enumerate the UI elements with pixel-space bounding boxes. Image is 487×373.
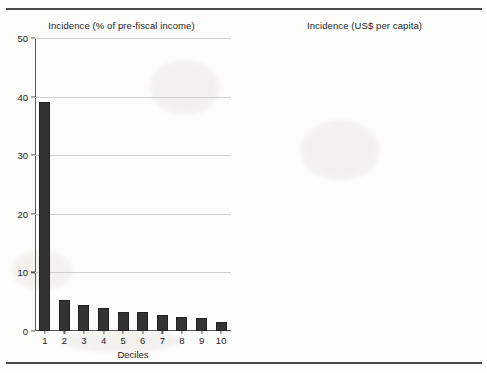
bar	[176, 317, 187, 331]
y-tick-label: 20	[17, 208, 28, 219]
chart-title-right: Incidence (US$ per capita)	[243, 20, 486, 31]
bar	[59, 300, 70, 331]
figure-page: Incidence (% of pre-fiscal income) 01020…	[0, 0, 487, 373]
bar-slot: 2	[55, 38, 75, 331]
page-rule-top	[6, 8, 482, 10]
bar-slot: 4	[94, 38, 114, 331]
bar	[78, 305, 89, 331]
y-tick-label: 0	[23, 326, 28, 337]
bar	[196, 318, 207, 331]
bar-slot: 1	[35, 38, 55, 331]
bar-slot: 5	[113, 38, 133, 331]
x-tick-label: 8	[179, 335, 184, 346]
bar-slot: 6	[133, 38, 153, 331]
x-tick-mark	[123, 331, 124, 334]
x-tick-label: 3	[81, 335, 86, 346]
x-tick-label: 4	[101, 335, 106, 346]
y-tick-label: 50	[17, 33, 28, 44]
plot-area-left: 01020304050 12345678910 Deciles	[35, 38, 231, 331]
bar	[137, 312, 148, 331]
x-tick-label: 7	[160, 335, 165, 346]
bar-slot: 8	[172, 38, 192, 331]
chart-panel-incidence-usd: Incidence (US$ per capita) 00.30.60.91.2…	[243, 12, 486, 360]
x-tick-label: 5	[121, 335, 126, 346]
x-tick-mark	[83, 331, 84, 334]
y-tick-label: 40	[17, 91, 28, 102]
figure-panels: Incidence (% of pre-fiscal income) 01020…	[0, 12, 487, 360]
x-tick-mark	[162, 331, 163, 334]
x-tick-label: 1	[42, 335, 47, 346]
y-tick-label: 10	[17, 267, 28, 278]
y-tick-label: 30	[17, 150, 28, 161]
x-tick-label: 6	[140, 335, 145, 346]
x-tick-mark	[103, 331, 104, 334]
page-rule-bottom	[6, 362, 482, 364]
bar	[157, 315, 168, 331]
x-tick-mark	[221, 331, 222, 334]
x-tick-label: 2	[62, 335, 67, 346]
x-tick-mark	[44, 331, 45, 334]
bar	[216, 322, 227, 331]
x-tick-mark	[201, 331, 202, 334]
x-tick-label: 9	[199, 335, 204, 346]
bar-slot: 9	[192, 38, 212, 331]
bar	[98, 308, 109, 331]
chart-panel-incidence-percent: Incidence (% of pre-fiscal income) 01020…	[0, 12, 243, 360]
bar	[39, 102, 50, 331]
x-tick-mark	[181, 331, 182, 334]
x-axis-title-left: Deciles	[35, 349, 231, 360]
x-tick-mark	[142, 331, 143, 334]
bar-series-left: 12345678910	[35, 38, 231, 331]
bar-slot: 3	[74, 38, 94, 331]
x-tick-mark	[64, 331, 65, 334]
bar-slot: 7	[153, 38, 173, 331]
bar	[118, 312, 129, 331]
x-tick-label: 10	[216, 335, 227, 346]
chart-title-left: Incidence (% of pre-fiscal income)	[0, 20, 243, 31]
bar-slot: 10	[211, 38, 231, 331]
